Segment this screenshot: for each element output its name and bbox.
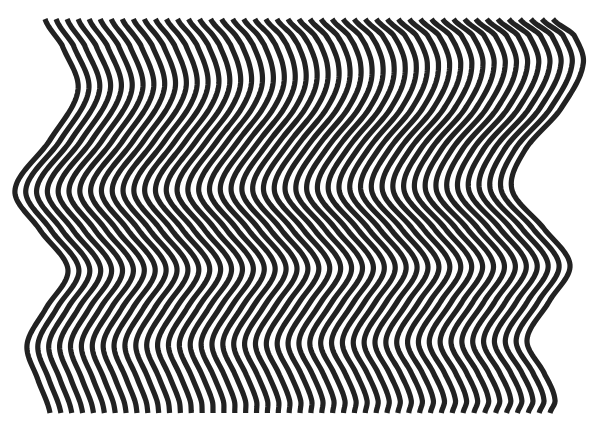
wavy-stripes-artwork (0, 0, 602, 434)
wavy-stripe (15, 19, 78, 413)
stripe-group (15, 19, 584, 413)
